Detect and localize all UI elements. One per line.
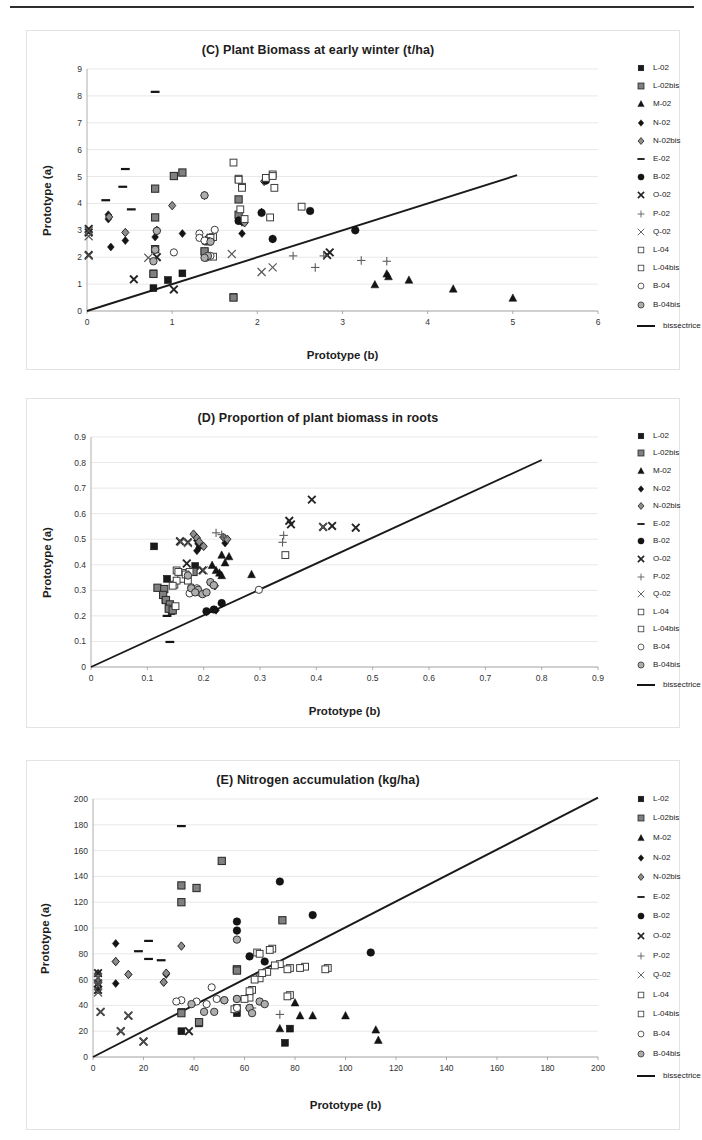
legend-item-M-02[interactable]: M-02 xyxy=(633,95,701,113)
svg-text:6: 6 xyxy=(596,317,601,327)
svg-text:0: 0 xyxy=(81,662,86,672)
svg-text:0.6: 0.6 xyxy=(423,673,435,683)
legend-e: L-02 L-02bis M-02 N-02 N-02bis E-02 B-02 xyxy=(633,789,701,1087)
legend-label: L-02bis xyxy=(653,449,679,457)
legend-item-bissectrice[interactable]: bissectrice xyxy=(633,316,701,336)
legend-marker-L-04-icon xyxy=(633,989,649,1001)
svg-text:20: 20 xyxy=(139,1063,149,1073)
svg-text:0.6: 0.6 xyxy=(74,509,86,519)
legend-item-L-02bis[interactable]: L-02bis xyxy=(633,445,701,463)
legend-label: bissectrice xyxy=(663,1072,701,1080)
svg-text:0.7: 0.7 xyxy=(479,673,491,683)
legend-item-L-02bis[interactable]: L-02bis xyxy=(633,809,701,829)
legend-label: E-02 xyxy=(653,520,670,528)
svg-text:4: 4 xyxy=(425,317,430,327)
legend-label: N-02bis xyxy=(653,137,681,145)
legend-item-M-02[interactable]: M-02 xyxy=(633,462,701,480)
svg-text:40: 40 xyxy=(189,1063,199,1073)
legend-marker-L-04bis-icon xyxy=(633,262,649,274)
legend-item-N-02bis[interactable]: N-02bis xyxy=(633,132,701,150)
legend-marker-N-02-icon xyxy=(633,483,649,495)
legend-marker-N-02bis-icon xyxy=(633,500,649,512)
legend-item-bissectrice[interactable]: bissectrice xyxy=(633,675,701,695)
legend-marker-O-02-icon xyxy=(633,930,649,942)
legend-marker-E-02-icon xyxy=(633,153,649,165)
legend-item-L-04bis[interactable]: L-04bis xyxy=(633,1005,701,1025)
legend-item-B-04[interactable]: B-04 xyxy=(633,1024,701,1044)
legend-marker-bissectrice-icon xyxy=(633,320,659,332)
legend-item-B-04bis[interactable]: B-04bis xyxy=(633,295,701,313)
legend-item-L-02[interactable]: L-02 xyxy=(633,59,701,77)
legend-item-B-02[interactable]: B-02 xyxy=(633,168,701,186)
legend-item-L-02bis[interactable]: L-02bis xyxy=(633,77,701,95)
legend-item-B-02[interactable]: B-02 xyxy=(633,533,701,551)
legend-label: Q-02 xyxy=(653,228,671,236)
legend-item-bissectrice[interactable]: bissectrice xyxy=(633,1065,701,1087)
legend-marker-B-04-icon xyxy=(633,280,649,292)
legend-item-B-04bis[interactable]: B-04bis xyxy=(633,1044,701,1064)
legend-label: N-02bis xyxy=(653,873,681,881)
legend-item-E-02[interactable]: E-02 xyxy=(633,150,701,168)
legend-item-B-04[interactable]: B-04 xyxy=(633,638,701,656)
plot-area-c: 01234567890123456 xyxy=(61,63,606,333)
legend-item-L-04bis[interactable]: L-04bis xyxy=(633,621,701,639)
legend-label: bissectrice xyxy=(663,322,701,330)
legend-marker-M-02-icon xyxy=(633,465,649,477)
legend-item-P-02[interactable]: P-02 xyxy=(633,205,701,223)
legend-item-O-02[interactable]: O-02 xyxy=(633,926,701,946)
legend-label: N-02 xyxy=(653,119,670,127)
legend-item-E-02[interactable]: E-02 xyxy=(633,515,701,533)
legend-item-N-02[interactable]: N-02 xyxy=(633,480,701,498)
svg-text:0.3: 0.3 xyxy=(254,673,266,683)
svg-text:0.1: 0.1 xyxy=(141,673,153,683)
svg-text:0.4: 0.4 xyxy=(74,560,86,570)
legend-item-P-02[interactable]: P-02 xyxy=(633,946,701,966)
legend-item-N-02[interactable]: N-02 xyxy=(633,114,701,132)
svg-text:160: 160 xyxy=(490,1063,504,1073)
legend-item-N-02bis[interactable]: N-02bis xyxy=(633,497,701,515)
legend-label: L-04bis xyxy=(653,1010,679,1018)
legend-item-L-04bis[interactable]: L-04bis xyxy=(633,259,701,277)
page-top-rule xyxy=(10,6,694,8)
legend-marker-L-02-icon xyxy=(633,430,649,442)
legend-item-L-04[interactable]: L-04 xyxy=(633,603,701,621)
legend-item-L-02[interactable]: L-02 xyxy=(633,789,701,809)
svg-text:0.8: 0.8 xyxy=(536,673,548,683)
legend-marker-B-04bis-icon xyxy=(633,299,649,311)
legend-item-L-04[interactable]: L-04 xyxy=(633,241,701,259)
legend-item-Q-02[interactable]: Q-02 xyxy=(633,965,701,985)
legend-item-B-02[interactable]: B-02 xyxy=(633,907,701,927)
legend-item-Q-02[interactable]: Q-02 xyxy=(633,223,701,241)
legend-item-O-02[interactable]: O-02 xyxy=(633,186,701,204)
legend-marker-L-04bis-icon xyxy=(633,623,649,635)
legend-item-N-02bis[interactable]: N-02bis xyxy=(633,867,701,887)
legend-item-B-04bis[interactable]: B-04bis xyxy=(633,656,701,674)
legend-marker-Q-02-icon xyxy=(633,969,649,981)
svg-text:120: 120 xyxy=(74,897,88,907)
legend-marker-Q-02-icon xyxy=(633,588,649,600)
legend-label: B-04 xyxy=(653,643,670,651)
plot-area-e: 0204060801001201401601802000204060801001… xyxy=(61,793,606,1081)
legend-label: L-04bis xyxy=(653,264,679,272)
svg-text:140: 140 xyxy=(439,1063,453,1073)
legend-label: B-04 xyxy=(653,282,670,290)
series-L-04 xyxy=(205,159,305,245)
svg-text:2: 2 xyxy=(77,252,82,262)
legend-label: L-02 xyxy=(653,795,669,803)
legend-item-Q-02[interactable]: Q-02 xyxy=(633,585,701,603)
svg-text:7: 7 xyxy=(77,118,82,128)
legend-marker-O-02-icon xyxy=(633,553,649,565)
legend-label: L-04bis xyxy=(653,625,679,633)
legend-item-N-02[interactable]: N-02 xyxy=(633,848,701,868)
series-N-02 xyxy=(95,939,170,993)
legend-item-M-02[interactable]: M-02 xyxy=(633,828,701,848)
svg-text:0: 0 xyxy=(77,306,82,316)
legend-label: N-02 xyxy=(653,485,670,493)
legend-item-B-04[interactable]: B-04 xyxy=(633,277,701,295)
series-L-02 xyxy=(150,248,237,300)
legend-item-L-04[interactable]: L-04 xyxy=(633,985,701,1005)
legend-item-O-02[interactable]: O-02 xyxy=(633,550,701,568)
legend-item-P-02[interactable]: P-02 xyxy=(633,568,701,586)
legend-item-E-02[interactable]: E-02 xyxy=(633,887,701,907)
legend-item-L-02[interactable]: L-02 xyxy=(633,427,701,445)
